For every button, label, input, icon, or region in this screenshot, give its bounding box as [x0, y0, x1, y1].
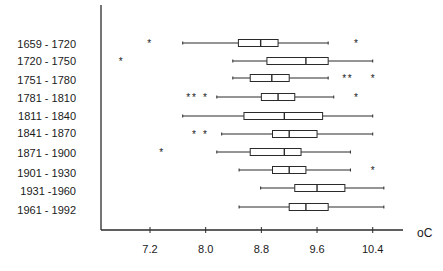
category-label: 1931 -1960 — [20, 185, 76, 197]
iqr-box — [244, 113, 323, 120]
outlier-marker: * — [186, 92, 190, 103]
category-label: 1659 - 1720 — [17, 38, 76, 50]
outlier-marker: * — [159, 147, 163, 158]
outlier-marker: * — [371, 73, 375, 84]
boxplot-row: * — [159, 147, 350, 158]
category-label: 1871 - 1900 — [17, 147, 76, 159]
outlier-marker: * — [354, 38, 358, 49]
x-tick-label: 8.8 — [254, 243, 269, 255]
outlier-marker: * — [147, 38, 151, 49]
iqr-box — [250, 75, 289, 82]
x-tick-label: 8.0 — [198, 243, 213, 255]
outlier-marker: * — [119, 56, 123, 67]
iqr-box — [238, 40, 278, 47]
category-label: 1961 - 1992 — [17, 204, 76, 216]
x-tick-label: 7.2 — [142, 243, 157, 255]
boxplot-row: * — [239, 165, 375, 176]
boxplot-row: *** — [233, 73, 375, 84]
boxplots: ************** — [119, 38, 384, 211]
outlier-marker: * — [348, 73, 352, 84]
x-ticks: 7.28.08.89.610.4 — [142, 227, 383, 255]
iqr-box — [295, 185, 345, 192]
iqr-box — [272, 131, 317, 138]
category-label: 1781 - 1810 — [17, 92, 76, 104]
outlier-marker: * — [192, 92, 196, 103]
outlier-marker: * — [203, 129, 207, 140]
outlier-marker: * — [354, 92, 358, 103]
iqr-box — [289, 204, 328, 211]
iqr-box — [267, 58, 328, 65]
category-labels: 1659 - 17201720 - 17501751 - 17801781 - … — [17, 38, 76, 216]
x-tick-label: 9.6 — [309, 243, 324, 255]
category-label: 1811 - 1840 — [18, 110, 76, 122]
boxplot-row — [183, 113, 373, 120]
boxplot-row: **** — [186, 92, 358, 103]
category-label: 1901 - 1930 — [17, 167, 76, 179]
boxplot-row: ** — [192, 129, 373, 140]
category-label: 1720 - 1750 — [17, 55, 76, 67]
boxplot-row — [239, 204, 384, 211]
boxplot-row: * — [119, 56, 373, 67]
boxplot-row: ** — [147, 38, 358, 49]
category-label: 1841 - 1870 — [17, 127, 76, 139]
x-tick-label: 10.4 — [362, 243, 383, 255]
outlier-marker: * — [371, 165, 375, 176]
boxplot-row — [261, 185, 384, 192]
category-label: 1751 - 1780 — [17, 74, 76, 86]
outlier-marker: * — [203, 92, 207, 103]
x-axis-unit-label: oC — [417, 226, 433, 240]
iqr-box — [250, 149, 301, 156]
outlier-marker: * — [342, 73, 346, 84]
boxplot-chart: 7.28.08.89.610.4 oC 1659 - 17201720 - 17… — [0, 0, 443, 271]
outlier-marker: * — [192, 129, 196, 140]
